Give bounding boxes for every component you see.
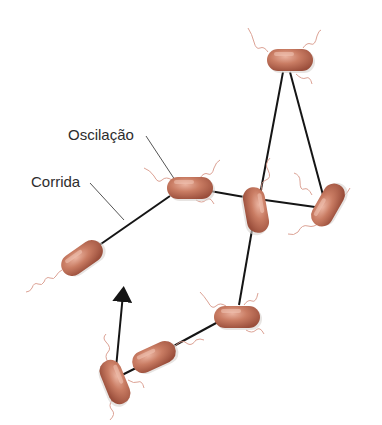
flagella: [26, 28, 350, 420]
bacterium-2-tumble: [167, 177, 215, 201]
path-segment: [260, 72, 283, 195]
path-segment: [265, 200, 315, 207]
run-leader-line: [90, 183, 124, 220]
bacterium-4: [307, 178, 352, 232]
bacterium-5-run: [57, 235, 110, 282]
run-label: Corrida: [31, 173, 81, 190]
path-segment: [290, 72, 323, 195]
tumble-label: Oscilação: [68, 126, 134, 143]
bacterium-7: [129, 336, 183, 378]
tumble-leader-line: [146, 136, 175, 180]
bacterial-chemotaxis-diagram: Oscilação Corrida: [0, 0, 382, 425]
label-leaders: [90, 136, 175, 220]
run-arrow: [116, 294, 123, 368]
bacterium-6: [214, 306, 262, 330]
bacterium-1: [267, 49, 315, 73]
bacterium-8: [94, 357, 134, 410]
movement-path: [98, 72, 323, 375]
path-segment: [239, 230, 252, 305]
bacterium-3: [239, 185, 271, 236]
